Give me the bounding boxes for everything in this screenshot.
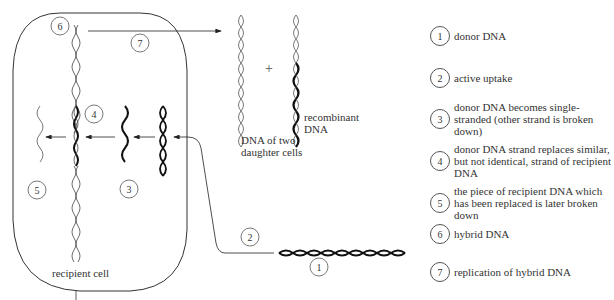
svg-text:1: 1 — [317, 262, 322, 273]
legend-item-1: 1 donor DNA — [430, 26, 614, 46]
legend-num-5: 5 — [430, 193, 450, 213]
recombinant-dna-label: recombinant DNA — [304, 111, 359, 135]
legend-text-1: donor DNA — [454, 30, 614, 42]
donor-dna-outside — [279, 251, 405, 256]
svg-text:6: 6 — [58, 21, 63, 32]
recipient-cell-label: recipient cell — [52, 267, 109, 279]
legend-item-5: 5 the piece of recipient DNA which has b… — [430, 185, 614, 221]
plus-sign: + — [265, 61, 273, 76]
daughter-cells-label: DNA of two daughter cells — [241, 134, 302, 158]
hybrid-dna-strand — [72, 25, 80, 262]
legend-text-2: active uptake — [454, 72, 614, 84]
legend-item-3: 3 donor DNA becomes single-stranded (oth… — [430, 101, 614, 137]
legend-num-1: 1 — [430, 26, 450, 46]
legend-item-7: 7 replication of hybrid DNA — [430, 262, 614, 282]
legend-text-7: replication of hybrid DNA — [454, 266, 614, 278]
svg-text:2: 2 — [248, 232, 253, 243]
svg-text:4: 4 — [92, 109, 97, 120]
legend-text-3: donor DNA becomes single-stranded (other… — [454, 101, 614, 137]
replaced-recipient-strand — [37, 106, 43, 162]
legend-num-7: 7 — [430, 262, 450, 282]
donor-dna-inside-cell — [160, 106, 166, 176]
svg-text:7: 7 — [138, 38, 143, 49]
daughter-label-line-2: daughter cells — [241, 146, 302, 158]
legend-num-6: 6 — [430, 224, 450, 244]
legend-item-6: 6 hybrid DNA — [430, 224, 614, 244]
legend-num-2: 2 — [430, 68, 450, 88]
legend-item-2: 2 active uptake — [430, 68, 614, 88]
recombinant-label-line-1: recombinant — [304, 111, 359, 123]
legend-text-5: the piece of recipient DNA which has bee… — [454, 185, 614, 221]
legend-num-3: 3 — [430, 109, 450, 129]
svg-text:3: 3 — [127, 184, 132, 195]
legend-text-6: hybrid DNA — [454, 228, 614, 240]
svg-text:5: 5 — [35, 185, 40, 196]
daughter-dna-normal — [239, 15, 244, 147]
legend-item-4: 4 donor DNA strand replaces similar, but… — [430, 143, 614, 179]
recombinant-label-line-2: DNA — [304, 123, 359, 135]
daughter-label-line-1: DNA of two — [241, 134, 302, 146]
daughter-dna-recombinant — [294, 15, 299, 147]
single-donor-strand — [122, 106, 128, 162]
legend-text-4: donor DNA strand replaces similar, but n… — [454, 143, 614, 179]
legend-num-4: 4 — [430, 151, 450, 171]
